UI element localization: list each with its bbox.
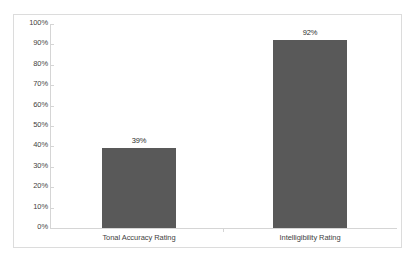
y-axis-tick-mark — [51, 65, 54, 66]
y-axis-tick-mark — [51, 167, 54, 168]
bar-value-label-1: 92% — [273, 28, 347, 37]
y-axis-tick-label: 50% — [33, 120, 48, 129]
y-axis-tick-label: 40% — [33, 140, 48, 149]
chart-container: 0% 10% 20% 30% 40% 50% 60% 70% 80% 90% 1… — [13, 14, 402, 248]
bar-value-label-0: 39% — [102, 136, 176, 145]
y-axis-tick-mark — [51, 126, 54, 127]
category-divider-tick — [223, 228, 224, 232]
y-axis-tick-label: 20% — [33, 181, 48, 190]
y-axis-tick-mark — [51, 228, 54, 229]
y-axis-tick-label: 100% — [29, 18, 48, 27]
y-axis-tick-mark — [51, 208, 54, 209]
bar-tonal-accuracy-rating — [102, 148, 176, 228]
y-axis-tick-label: 30% — [33, 161, 48, 170]
y-axis-tick-label: 10% — [33, 202, 48, 211]
y-axis-tick-label: 90% — [33, 38, 48, 47]
y-axis-tick-mark — [51, 187, 54, 188]
y-axis-tick-mark — [51, 24, 54, 25]
y-axis-tick-mark — [51, 44, 54, 45]
bar-intelligibility-rating — [273, 40, 347, 228]
y-axis-tick-mark — [51, 106, 54, 107]
y-axis-tick-mark — [51, 85, 54, 86]
y-axis-tick-mark — [51, 146, 54, 147]
y-axis-tick-label: 0% — [37, 222, 48, 231]
category-label-tonal-accuracy-rating: Tonal Accuracy Rating — [66, 233, 212, 242]
category-label-intelligibility-rating: Intelligibility Rating — [237, 233, 383, 242]
y-axis-tick-label: 60% — [33, 100, 48, 109]
y-axis-tick-label: 80% — [33, 59, 48, 68]
y-axis-tick-label: 70% — [33, 79, 48, 88]
